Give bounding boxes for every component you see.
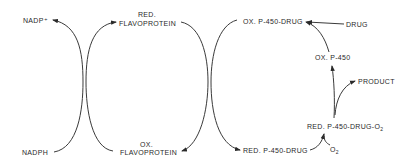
- nadp-plus-label: NADP⁺: [23, 17, 48, 24]
- arrow-ox-p450-drug-to-red-p450-drug: [211, 20, 240, 150]
- product-label: PRODUCT: [358, 78, 395, 85]
- red-flavoprotein-label-line2: FLAVOPROTEIN: [119, 20, 176, 27]
- red-p450-drug-o2-label: RED. P-450-DRUG-O2: [307, 123, 383, 132]
- arrow-ox-flavo-to-red-flavo: [86, 22, 116, 151]
- red-p450-drug-label: RED. P-450-DRUG: [243, 147, 308, 154]
- ox-flavoprotein-label-line1: OX.: [140, 141, 153, 148]
- arrow-o2-input: [324, 136, 330, 145]
- nadph-label: NADPH: [22, 149, 48, 156]
- p450-cycle-diagram: NADP⁺ NADPH RED. FLAVOPROTEIN OX. FLAVOP…: [0, 0, 411, 165]
- arrow-nadph-to-nadp: [53, 20, 83, 152]
- ox-p450-drug-label: OX. P-450-DRUG: [243, 18, 303, 25]
- arrow-drug-to-ox-p450-drug: [307, 22, 344, 24]
- red-flavoprotein-label-line1: RED.: [138, 11, 156, 18]
- arrow-red-p450-drug-to-o2-complex: [310, 134, 324, 150]
- arrow-red-flavo-to-ox-flavo: [181, 22, 208, 151]
- drug-label: DRUG: [346, 21, 368, 28]
- arrow-ox-p450-to-ox-p450-drug: [306, 22, 329, 52]
- o2-label: O2: [330, 146, 339, 155]
- ox-flavoprotein-label-line2: FLAVOPROTEIN: [120, 149, 177, 156]
- arrow-o2-complex-to-ox-p450: [332, 66, 334, 118]
- ox-p450-label: OX. P-450: [315, 54, 350, 61]
- arrow-o2-complex-to-product: [335, 81, 355, 115]
